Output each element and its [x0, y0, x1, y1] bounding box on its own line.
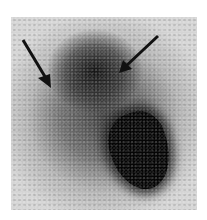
left-arrow-icon	[23, 40, 51, 88]
annotation-arrows	[0, 0, 207, 220]
right-arrow-icon	[119, 36, 158, 73]
